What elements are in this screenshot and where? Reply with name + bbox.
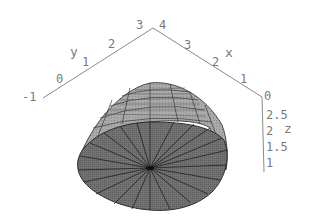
x-tick-label: 4 [159,18,166,32]
bottom-cap [78,122,228,210]
cap-center-point [146,166,154,170]
x-tick-label: 3 [184,38,191,52]
y-tick-label: -1 [22,90,36,104]
y-tick-label: 2 [108,37,115,51]
z-ticks: 2.5 2 1.5 1 z [266,108,292,170]
z-tick-label: 2 [266,124,273,138]
z-axis-label: z [284,121,292,136]
y-tick-label: 1 [82,55,89,69]
z-tick-label: 1.5 [266,140,288,154]
y-tick-label: 3 [136,18,143,32]
z-tick-label: 1 [266,156,273,170]
z-axis-line [262,97,264,172]
x-axis-label: x [225,45,233,60]
y-ticks: -1 0 1 2 3 y [22,18,143,104]
x-tick-label: 1 [240,72,247,86]
plot-3d: -1 0 1 2 3 y 4 3 2 1 0 x 2.5 2 1.5 1 z [0,0,315,221]
z-tick-label: 2.5 [266,108,288,122]
y-tick-label: 0 [56,72,63,86]
y-axis-label: y [70,44,78,59]
x-tick-label: 2 [212,55,219,69]
x-tick-label: 0 [264,89,271,103]
